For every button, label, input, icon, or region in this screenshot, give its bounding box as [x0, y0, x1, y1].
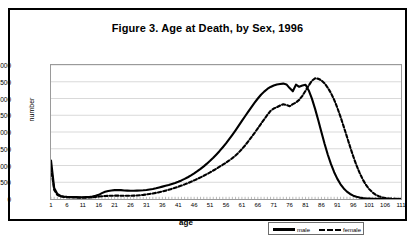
- chart-canvas: [51, 65, 401, 199]
- y-tick-label: 3500: [0, 78, 11, 85]
- y-tick-label: 4000: [0, 62, 11, 69]
- legend-item-male: male: [273, 223, 310, 236]
- y-tick-label: 1500: [0, 145, 11, 152]
- y-tick-label: 2500: [0, 112, 11, 119]
- y-tick-label: 3000: [0, 95, 11, 102]
- x-tick-marks: [51, 197, 401, 199]
- legend-swatch-female-icon: [319, 229, 341, 231]
- plot-area: [50, 64, 402, 200]
- y-tick-label: 500: [0, 179, 11, 186]
- legend-label-female: female: [343, 227, 361, 233]
- legend-label-male: male: [297, 227, 310, 233]
- legend-swatch-male-icon: [273, 228, 295, 231]
- legend-item-female: female: [319, 223, 361, 236]
- x-tick-label: 111: [392, 202, 410, 208]
- y-tick-label: 0: [0, 196, 11, 203]
- y-axis-label: number: [28, 80, 35, 140]
- page-title: Figure 3. Age at Death, by Sex, 1996: [10, 22, 405, 34]
- y-tick-label: 1000: [0, 162, 11, 169]
- figure-panel: Figure 3. Age at Death, by Sex, 1996 num…: [8, 8, 407, 221]
- gridlines: [51, 65, 401, 182]
- y-tick-label: 2000: [0, 129, 11, 136]
- legend: male female: [268, 222, 364, 235]
- series-line-female: [51, 78, 401, 199]
